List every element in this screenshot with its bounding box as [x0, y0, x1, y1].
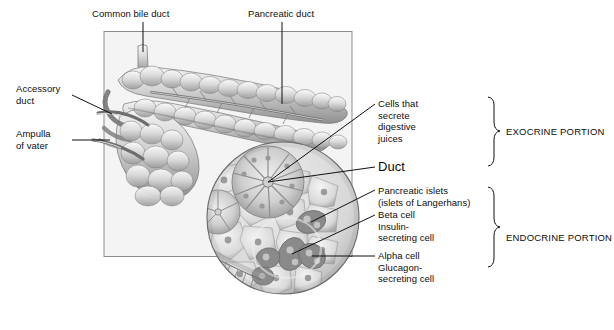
label-alpha-cell: Alpha cell Glucagon- secreting cell [378, 250, 434, 285]
label-ampulla-of-vater: Ampulla of vater [16, 128, 51, 151]
label-pancreatic-islets: Pancreatic islets (islets of Langerhans) [378, 185, 470, 208]
illustration-layer [0, 0, 614, 330]
label-common-bile-duct: Common bile duct [92, 8, 169, 20]
label-cells-that-secrete-digestive-juices: Cells that secrete digestive juices [378, 98, 418, 144]
group-label-endocrine-portion: ENDOCRINE PORTION [506, 232, 612, 244]
curly-brace-icon [488, 187, 500, 267]
brace-group [488, 97, 500, 267]
curly-brace-icon [488, 97, 500, 166]
label-pancreatic-duct: Pancreatic duct [248, 8, 314, 20]
label-beta-cell: Beta cell Insulin- secreting cell [378, 209, 434, 244]
figure-canvas: Common bile duct Pancreatic duct Accesso… [0, 0, 614, 330]
group-label-exocrine-portion: EXOCRINE PORTION [506, 126, 605, 138]
label-duct: Duct [378, 160, 405, 174]
label-accessory-duct: Accessory duct [16, 83, 60, 106]
